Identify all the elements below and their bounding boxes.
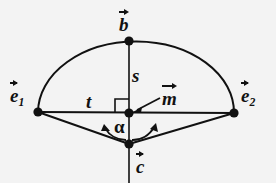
label-m-glyph: m: [162, 89, 177, 108]
label-s: s: [132, 66, 139, 85]
label-e2-glyph: e: [241, 86, 249, 105]
label-b-glyph: b: [119, 15, 129, 34]
label-vector-e1: e 1: [10, 79, 24, 109]
vector-arrow-m: m: [162, 82, 177, 108]
point-e1: [33, 107, 42, 116]
over-arrow-icon: [241, 80, 249, 85]
vector-arrow-b: b: [119, 8, 129, 34]
geometry-figure: b e 1 e 2 m c: [0, 0, 276, 183]
label-alpha: α: [114, 117, 125, 136]
over-arrow-icon: [136, 151, 144, 156]
label-c-glyph: c: [136, 157, 144, 176]
point-e2: [229, 108, 238, 117]
pointer-arrow-to-m: [133, 98, 160, 113]
over-arrow-icon: [119, 9, 129, 14]
label-e1-glyph: e: [10, 86, 18, 105]
label-vector-b: b: [119, 8, 129, 34]
leg-c-to-e2: [129, 113, 234, 144]
point-c: [124, 139, 133, 148]
label-vector-c: c: [136, 150, 144, 176]
over-arrow-icon: [162, 83, 177, 88]
label-t: t: [86, 92, 91, 111]
vector-arrow-e1: e: [10, 79, 18, 105]
over-arrow-icon: [10, 80, 18, 85]
label-vector-m: m: [162, 82, 177, 108]
label-e1-subscript: 1: [18, 96, 24, 109]
label-e2-subscript: 2: [249, 96, 255, 109]
vector-arrow-e2: e: [241, 79, 249, 105]
point-b: [124, 36, 133, 45]
point-m: [124, 108, 133, 117]
vector-arrow-c: c: [136, 150, 144, 176]
label-vector-e2: e 2: [241, 79, 255, 109]
